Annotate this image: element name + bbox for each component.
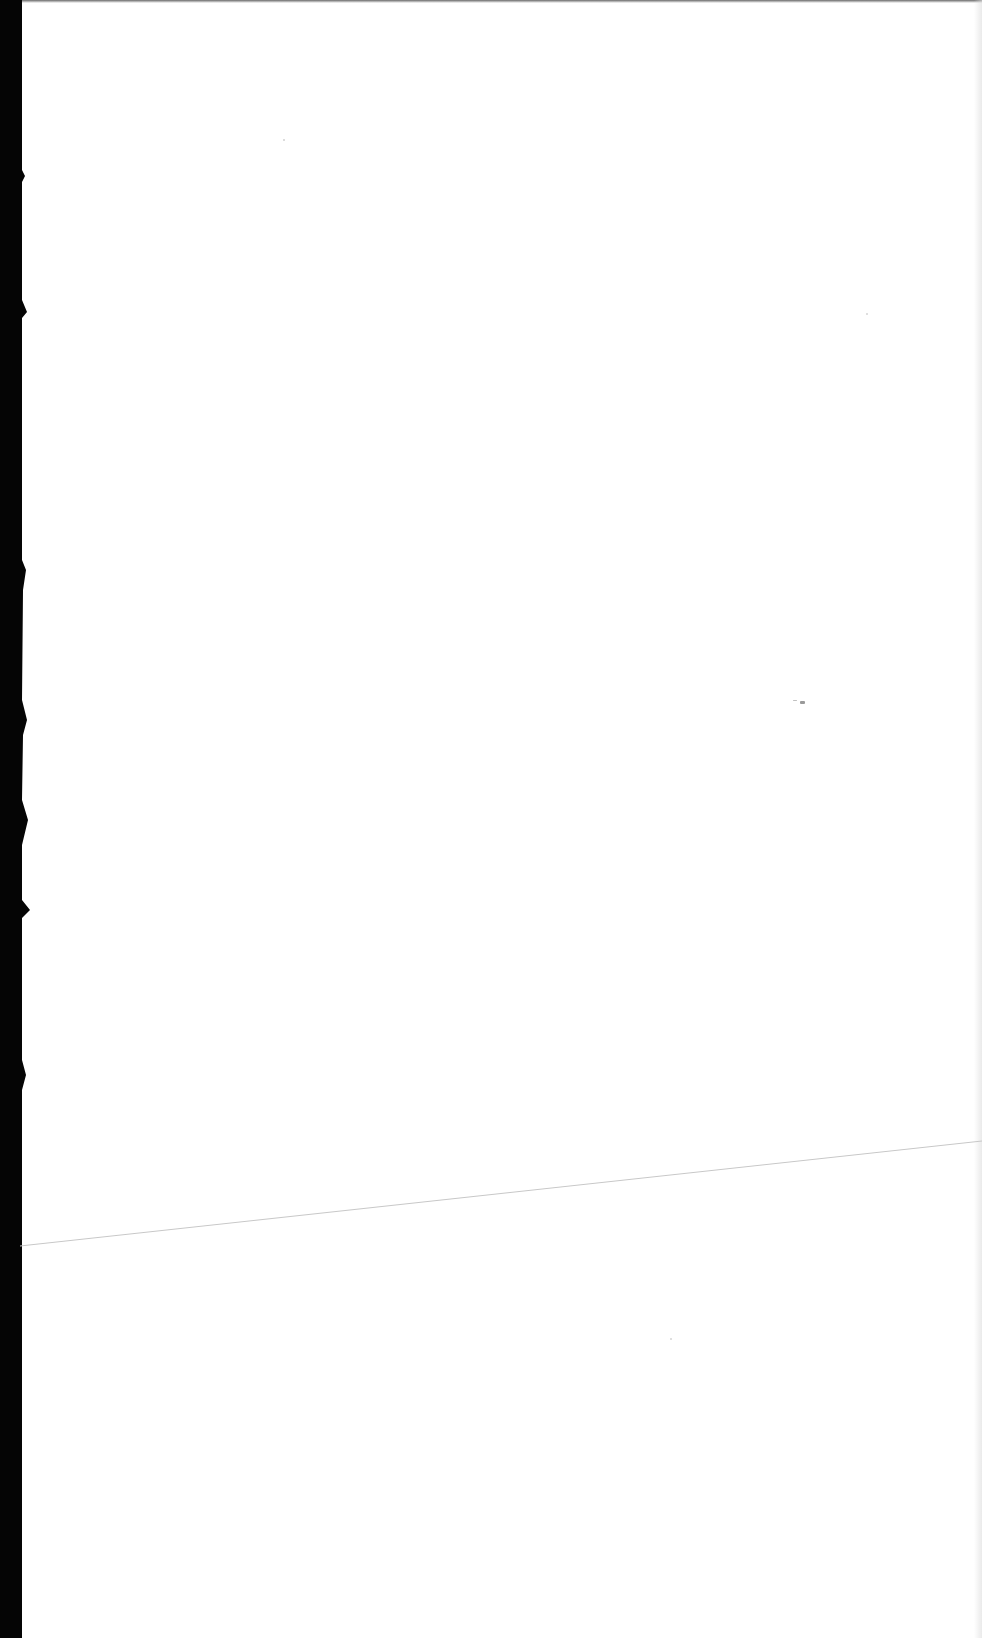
scan-speck [866, 313, 868, 315]
scan-speck [670, 1338, 672, 1340]
ragged-edge-shape [0, 0, 30, 1638]
scanned-blank-page [0, 0, 982, 1638]
scan-speck [283, 139, 285, 141]
scanner-shadow-right [974, 0, 982, 1638]
scan-speck [800, 701, 805, 704]
scanner-edge-left [0, 0, 22, 1638]
scanner-edge-top [22, 0, 982, 3]
scan-speck [793, 700, 797, 701]
paper-crease-line [0, 0, 982, 1638]
